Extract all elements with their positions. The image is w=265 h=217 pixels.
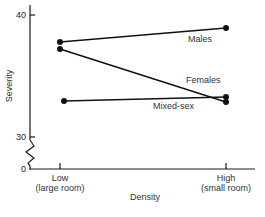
x-label-low-sub: (large room): [35, 183, 84, 193]
y-axis-title: Severity: [4, 69, 14, 102]
label-males: Males: [188, 34, 213, 44]
chart: 40 30 0 Low (large room) High (small roo…: [0, 0, 265, 217]
series-females: Females: [57, 46, 229, 105]
label-mixed-sex: Mixed-sex: [153, 101, 195, 111]
label-females: Females: [186, 75, 221, 85]
series-mixed-sex: Mixed-sex: [61, 94, 229, 111]
series-males: Males: [57, 25, 229, 45]
y-tick-label-40: 40: [16, 10, 26, 20]
x-label-high-sub: (small room): [201, 183, 251, 193]
x-label-low: Low: [52, 173, 69, 183]
y-tick-label-30: 30: [16, 132, 26, 142]
axis-break-icon: [26, 140, 34, 170]
x-axis-title: Density: [130, 192, 161, 202]
y-tick-label-0: 0: [21, 164, 26, 174]
x-label-high: High: [217, 173, 236, 183]
